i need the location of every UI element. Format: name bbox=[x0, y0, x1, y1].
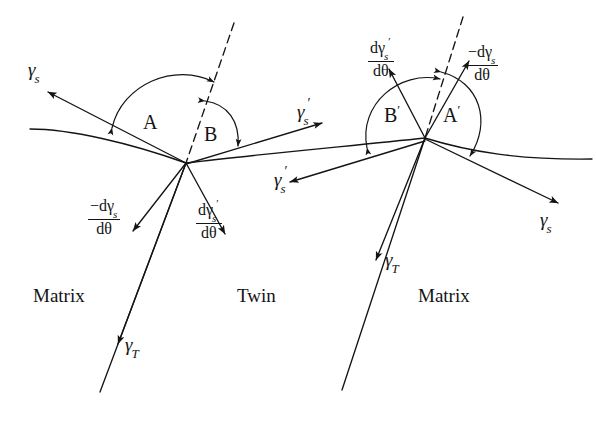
angle-label-B: B bbox=[204, 122, 217, 144]
gamma-subscript: T bbox=[132, 346, 139, 361]
region-label-matrix-left: Matrix bbox=[33, 286, 85, 305]
angle-label-A-prime-text: A bbox=[443, 104, 457, 126]
fraction-numerator: −dγs bbox=[88, 196, 120, 219]
free-surface-curve-right bbox=[425, 138, 592, 159]
angle-label-A-text: A bbox=[143, 111, 157, 133]
numerator-subscript: s bbox=[384, 50, 388, 62]
gamma-T-arrow-right bbox=[376, 138, 425, 260]
fraction-denominator: dθ bbox=[88, 220, 120, 238]
derivative-label-neg-dgamma-s-dtheta-left: −dγs dθ bbox=[88, 196, 120, 238]
gamma-subscript: T bbox=[392, 261, 399, 276]
fraction-numerator: dγs′ bbox=[368, 38, 394, 61]
derivative-label-neg-dgamma-s-dtheta-right: −dγs dθ bbox=[466, 42, 498, 84]
numerator-prime: ′ bbox=[388, 35, 390, 47]
gamma-subscript: s bbox=[35, 71, 40, 86]
vector-label-gamma-s-left: γs bbox=[28, 58, 41, 83]
numerator-main: −dγ bbox=[468, 43, 492, 60]
angle-label-A-prime-prime-mark: ′ bbox=[457, 102, 460, 117]
fraction-numerator: dγs′ bbox=[196, 200, 222, 223]
gamma-subscript: s bbox=[304, 113, 309, 128]
gamma-prime-mark: ′ bbox=[308, 96, 311, 111]
angle-label-A-prime: A′ bbox=[443, 103, 460, 125]
gamma-T-boundary-right bbox=[342, 138, 425, 390]
twin-surface-segment bbox=[186, 138, 425, 163]
numerator-main: dγ bbox=[370, 39, 385, 56]
vector-label-gamma-T-left: γT bbox=[125, 333, 140, 358]
fraction-numerator: −dγs bbox=[466, 42, 498, 65]
angle-label-A: A bbox=[143, 110, 157, 132]
derivative-label-dgamma-s-prime-dtheta-right: dγs′ dθ bbox=[368, 38, 394, 80]
vector-label-gamma-s-right: γs bbox=[540, 208, 553, 233]
numerator-main: −dγ bbox=[90, 197, 114, 214]
region-label-matrix-right: Matrix bbox=[418, 286, 470, 305]
vector-label-gamma-s-prime-lower: γs′ bbox=[274, 168, 290, 193]
numerator-subscript: s bbox=[491, 54, 495, 66]
gamma-s-prime-vector-left-going bbox=[290, 141, 425, 182]
gamma-subscript: s bbox=[547, 221, 552, 236]
fraction-denominator: dθ bbox=[368, 62, 394, 80]
neg-dgamma-s-dtheta-vector-left bbox=[133, 163, 186, 231]
angle-arc-B-prime bbox=[366, 78, 440, 148]
gamma-prime-mark: ′ bbox=[285, 164, 288, 179]
angle-label-B-prime-prime-mark: ′ bbox=[397, 102, 400, 117]
numerator-subscript: s bbox=[212, 212, 216, 224]
free-surface-curve-left bbox=[30, 129, 186, 163]
fraction-denominator: dθ bbox=[466, 66, 498, 84]
numerator-prime: ′ bbox=[216, 197, 218, 209]
fraction-denominator: dθ bbox=[196, 224, 222, 242]
angle-label-B-prime-text: B bbox=[384, 104, 397, 126]
derivative-label-dgamma-s-prime-dtheta-left: dγs′ dθ bbox=[196, 200, 222, 242]
numerator-main: dγ bbox=[198, 201, 213, 218]
angle-arc-A bbox=[112, 75, 214, 128]
vector-label-gamma-s-prime-upper: γs′ bbox=[297, 100, 313, 125]
numerator-subscript: s bbox=[113, 208, 117, 220]
gamma-T-arrow-left bbox=[118, 163, 186, 344]
twin-boundary-diagram: Matrix Twin Matrix A B B′ A′ γs γs′ γs′ … bbox=[0, 0, 596, 424]
gamma-s-vector-left bbox=[48, 92, 186, 163]
neg-dgamma-s-dtheta-vector-right bbox=[425, 61, 469, 138]
region-label-twin: Twin bbox=[237, 286, 276, 305]
angle-label-B-prime: B′ bbox=[384, 103, 400, 125]
vector-label-gamma-T-right: γT bbox=[385, 248, 400, 273]
gamma-s-vector-right bbox=[425, 139, 558, 203]
gamma-subscript: s bbox=[281, 181, 286, 196]
angle-label-B-text: B bbox=[204, 123, 217, 145]
